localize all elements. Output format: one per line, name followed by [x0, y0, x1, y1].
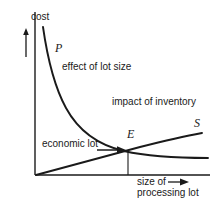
economic-lot-callout-label: economic lot — [42, 139, 98, 150]
curve-p-label: P — [55, 42, 62, 55]
x-axis-label: size of processing lot — [137, 177, 199, 199]
economic-lot-size-figure: cost P effect of lot size impact of inve… — [0, 0, 215, 206]
y-axis-label: cost — [31, 12, 49, 23]
cost-up-arrow-icon — [23, 28, 29, 57]
x-axis-label-line2: processing lot — [137, 188, 199, 199]
curve-p-description-label: effect of lot size — [62, 62, 131, 73]
intersection-point-label: E — [127, 128, 134, 141]
curve-s-label: S — [194, 117, 200, 130]
curve-s-description-label: impact of inventory — [112, 97, 196, 108]
